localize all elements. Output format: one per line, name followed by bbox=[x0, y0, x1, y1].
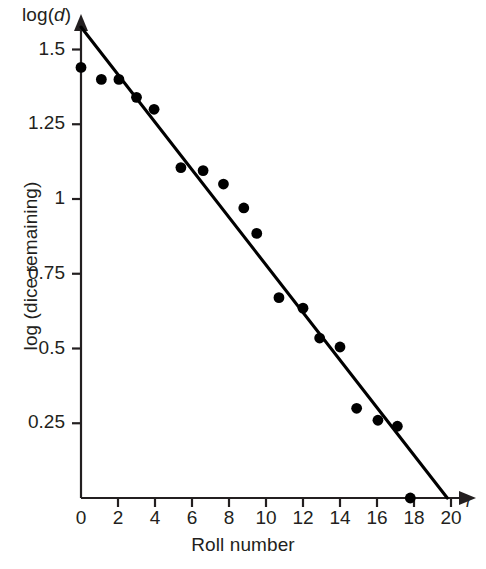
y-tick-label: 0.5 bbox=[0, 337, 65, 359]
data-point bbox=[314, 333, 325, 344]
x-tick-label: 8 bbox=[209, 507, 249, 529]
ticks-group bbox=[72, 50, 451, 508]
scatter-plot bbox=[0, 0, 486, 569]
data-point bbox=[251, 228, 262, 239]
y-tick-label: 1.5 bbox=[0, 38, 65, 60]
axes-group bbox=[74, 14, 476, 505]
data-point bbox=[335, 342, 346, 353]
data-point bbox=[392, 421, 403, 432]
y-tick-label: 0.75 bbox=[0, 262, 65, 284]
x-tick-label: 12 bbox=[283, 507, 323, 529]
data-point bbox=[405, 493, 416, 504]
data-point bbox=[274, 292, 285, 303]
x-tick-label: 10 bbox=[246, 507, 286, 529]
data-point bbox=[149, 104, 160, 115]
x-axis-arrowhead bbox=[459, 491, 476, 505]
data-point bbox=[238, 203, 249, 214]
data-point bbox=[373, 415, 384, 426]
data-point bbox=[76, 62, 87, 73]
x-tick-label: 16 bbox=[357, 507, 397, 529]
y-tick-label: 1.25 bbox=[0, 112, 65, 134]
data-point bbox=[96, 74, 107, 85]
y-tick-label: 1 bbox=[0, 187, 65, 209]
data-point bbox=[298, 303, 309, 314]
data-point bbox=[131, 92, 142, 103]
x-tick-label: 20 bbox=[431, 507, 471, 529]
data-point bbox=[176, 162, 187, 173]
x-tick-label: 4 bbox=[135, 507, 175, 529]
data-point bbox=[114, 74, 125, 85]
x-tick-label: 18 bbox=[394, 507, 434, 529]
figure-container: log(d) log (dice remaining) Roll number … bbox=[0, 0, 486, 569]
data-points-group bbox=[76, 62, 416, 503]
x-tick-label: 0 bbox=[61, 507, 101, 529]
data-point bbox=[351, 403, 362, 414]
data-point bbox=[198, 165, 209, 176]
x-tick-label: 2 bbox=[98, 507, 138, 529]
data-point bbox=[218, 179, 229, 190]
x-tick-label: 6 bbox=[172, 507, 212, 529]
x-tick-label: 14 bbox=[320, 507, 360, 529]
y-tick-label: 0.25 bbox=[0, 411, 65, 433]
